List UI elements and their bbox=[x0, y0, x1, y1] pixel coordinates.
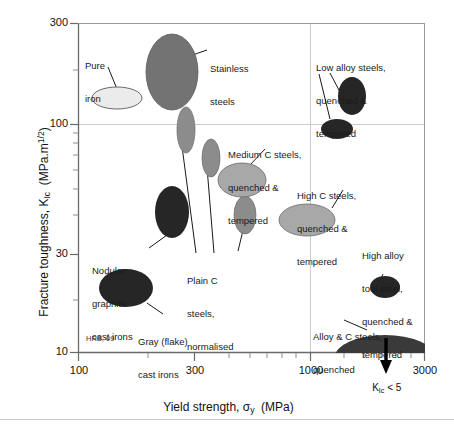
y-axis-title-unit-close: ) bbox=[37, 127, 51, 131]
label-low-alloy-steels: Low alloy steels, quenched & tempered bbox=[316, 40, 386, 161]
klc-threshold-annotation: KIc < 5 bbox=[361, 371, 401, 406]
fracture-toughness-vs-yield-strength-chart: 300 100 30 10 100 300 1000 3000 Fracture… bbox=[0, 0, 454, 424]
label-nodular-line-1: Nodular bbox=[92, 265, 133, 276]
y-axis-title-unit-open: (MPa.m bbox=[37, 143, 51, 192]
author-credit: HRS, 09 bbox=[86, 334, 114, 343]
label-medium-c-steels: Medium C steels, quenched & tempered bbox=[228, 127, 301, 248]
label-pure-iron-line-1: Pure bbox=[85, 60, 105, 71]
label-low-alloy-steels-line-1: Low alloy steels, bbox=[316, 62, 386, 73]
label-medium-c-steels-line-1: Medium C steels, bbox=[228, 149, 301, 160]
bottom-divider bbox=[0, 419, 454, 420]
label-low-alloy-steels-line-2: quenched & bbox=[316, 95, 386, 106]
label-high-c-steels-line-1: High C steels, bbox=[297, 190, 356, 201]
label-gray-flake-line-1: Gray (flake) bbox=[138, 336, 188, 347]
label-plain-c-steels-line-1: Plain C bbox=[187, 275, 233, 286]
label-high-c-steels: High C steels, quenched & tempered bbox=[297, 168, 356, 289]
label-high-c-steels-line-2: quenched & bbox=[297, 223, 356, 234]
y-tick-300: 300 bbox=[40, 16, 68, 28]
label-medium-c-steels-line-3: tempered bbox=[228, 215, 301, 226]
label-gray-flake-cast-irons: Gray (flake) cast irons bbox=[138, 314, 188, 402]
label-high-c-steels-line-3: tempered bbox=[297, 256, 356, 267]
x-axis-title-unit: (MPa) bbox=[254, 400, 293, 414]
y-axis-title-sub: Ic bbox=[42, 192, 52, 199]
label-high-alloy-tool-line-2: tool steel, bbox=[362, 283, 413, 294]
label-stainless-steels-line-1: Stainless bbox=[210, 63, 249, 74]
label-gray-flake-line-2: cast irons bbox=[138, 369, 188, 380]
label-nodular-line-2: graphite bbox=[92, 298, 133, 309]
label-stainless-steels: Stainless steels bbox=[210, 41, 249, 129]
label-pure-iron: Pure iron bbox=[85, 38, 105, 126]
label-alloy-c-quenched-line-1: Alloy & C steels, bbox=[313, 331, 382, 342]
y-axis-minor-ticks bbox=[73, 70, 78, 300]
klc-symbol: K bbox=[372, 382, 379, 393]
label-nodular-graphite-cast-irons: Nodular graphite cast irons bbox=[92, 243, 133, 364]
x-tick-100: 100 bbox=[63, 364, 95, 376]
label-pure-iron-line-2: iron bbox=[85, 93, 105, 104]
klc-value: < 5 bbox=[384, 382, 401, 393]
label-plain-c-steels-line-3: normalised bbox=[187, 341, 233, 352]
y-axis-ticks bbox=[70, 24, 78, 353]
y-tick-10: 10 bbox=[40, 345, 68, 357]
bubble-plain-c-steels-1 bbox=[177, 107, 195, 153]
bubble-plain-c-steels-2 bbox=[202, 139, 220, 177]
label-high-alloy-tool-line-1: High alloy bbox=[362, 250, 413, 261]
label-plain-c-steels: Plain C steels, normalised bbox=[187, 253, 233, 374]
x-axis-title-main: Yield strength, σ bbox=[163, 400, 250, 414]
y-axis-title-sup: 1/2 bbox=[36, 131, 46, 143]
bubble-stainless-steels bbox=[146, 34, 198, 110]
label-low-alloy-steels-line-3: tempered bbox=[316, 128, 386, 139]
y-axis-title-main: Fracture toughness, K bbox=[37, 199, 51, 317]
y-axis-title: Fracture toughness, KIc (MPa.m1/2) bbox=[22, 127, 66, 330]
label-medium-c-steels-line-2: quenched & bbox=[228, 182, 301, 193]
bubble-nodular-graphite-cast-irons bbox=[155, 186, 189, 238]
label-plain-c-steels-line-2: steels, bbox=[187, 308, 233, 319]
label-stainless-steels-line-2: steels bbox=[210, 96, 249, 107]
